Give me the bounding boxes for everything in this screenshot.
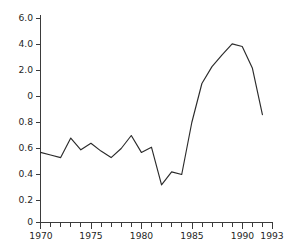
y-axis: 6.0 4.0 2.0 0 0.8 0.6 0.4 0.2 0 [18, 12, 40, 227]
chart-canvas: 6.0 4.0 2.0 0 0.8 0.6 0.4 0.2 0 [0, 0, 287, 252]
x-tick-label-1970: 1970 [29, 230, 53, 241]
y-tick-label-7: 0.2 [18, 194, 33, 205]
x-axis-labels: 1970 1975 1980 1985 1990 1993 [29, 230, 284, 241]
x-tick-label-1975: 1975 [79, 230, 103, 241]
y-tick-label-5: 0.6 [18, 142, 33, 153]
line-chart: 6.0 4.0 2.0 0 0.8 0.6 0.4 0.2 0 [0, 0, 287, 252]
x-tick-label-1980: 1980 [130, 230, 154, 241]
x-tick-label-1990: 1990 [231, 230, 255, 241]
x-axis: 1970 1975 1980 1985 1990 1993 [29, 223, 284, 242]
x-tick-label-1993: 1993 [260, 230, 284, 241]
y-tick-label-3: 0 [27, 90, 33, 101]
y-tick-label-6: 0.4 [18, 168, 33, 179]
data-line-series-1 [41, 44, 263, 185]
data-series-group [41, 44, 263, 185]
x-axis-ticks [41, 223, 273, 229]
y-tick-label-2: 2.0 [18, 64, 33, 75]
y-tick-label-4: 0.8 [18, 116, 33, 127]
x-tick-label-1985: 1985 [180, 230, 204, 241]
y-tick-label-8: 0 [27, 216, 33, 227]
y-tick-label-1: 4.0 [18, 38, 33, 49]
y-axis-labels: 6.0 4.0 2.0 0 0.8 0.6 0.4 0.2 0 [18, 12, 33, 227]
y-tick-label-0: 6.0 [18, 12, 33, 23]
y-axis-ticks [36, 19, 41, 223]
